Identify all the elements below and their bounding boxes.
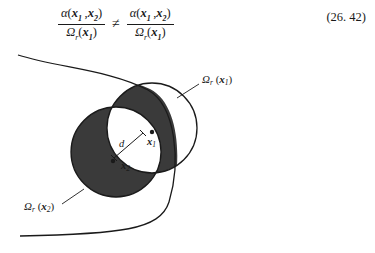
right-fraction-numerator: α(x1 ,x2) <box>127 7 174 24</box>
figure-diagram: Ωr (x1) Ωr (x2) d x1 x2 <box>0 44 375 253</box>
right-fraction: α(x1 ,x2) Ωr(x1) <box>127 7 174 42</box>
label-distance-d: d <box>119 138 125 149</box>
label-omega-x1: Ωr (x1) <box>202 73 233 87</box>
equation-row: α(x1 ,x2) Ωr(x1) ≠ α(x1 ,x2) Ωr(x1) (26.… <box>0 2 375 46</box>
left-fraction-denominator: Ωr(x1) <box>63 25 100 42</box>
figure-page: α(x1 ,x2) Ωr(x1) ≠ α(x1 ,x2) Ωr(x1) (26.… <box>0 0 375 253</box>
shaded-region <box>0 44 375 253</box>
point-marker-x2 <box>111 159 115 163</box>
left-fraction-numerator: α(x1 ,x2) <box>58 7 105 24</box>
point-marker-x1 <box>150 130 154 134</box>
equation-number: (26. 42) <box>326 10 366 25</box>
left-fraction: α(x1 ,x2) Ωr(x1) <box>58 7 105 42</box>
label-omega-x2: Ωr (x2) <box>24 200 55 214</box>
leader-line-omega-x1 <box>177 84 199 98</box>
equation-expression: α(x1 ,x2) Ωr(x1) ≠ α(x1 ,x2) Ωr(x1) <box>58 2 174 46</box>
relation-symbol: ≠ <box>105 17 127 31</box>
right-fraction-denominator: Ωr(x1) <box>132 25 169 42</box>
